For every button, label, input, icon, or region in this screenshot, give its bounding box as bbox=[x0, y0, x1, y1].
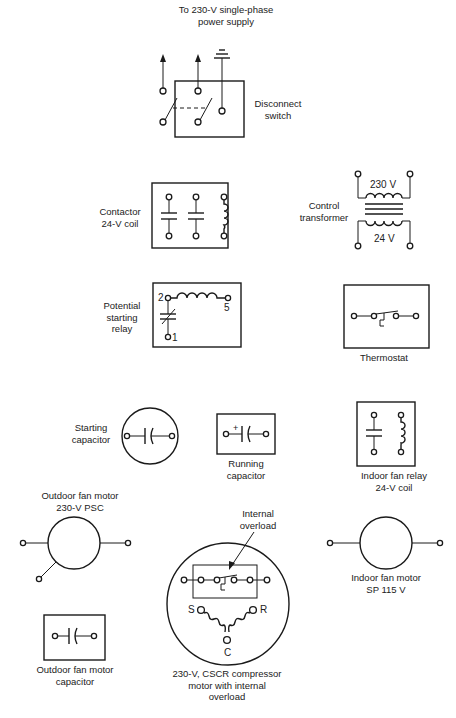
outdoor-fan-motor-symbol bbox=[20, 517, 130, 582]
terminal-r: R bbox=[260, 604, 267, 615]
primary-voltage: 230 V bbox=[370, 179, 396, 190]
thermostat-symbol bbox=[344, 285, 429, 348]
potential-relay-symbol: 2 5 1 bbox=[153, 283, 241, 347]
relay-terminal-5: 5 bbox=[224, 302, 230, 313]
indoor-fan-relay-symbol bbox=[357, 402, 415, 466]
compressor-symbol: S R C bbox=[167, 532, 289, 665]
control-transformer-symbol: 230 V 24 V bbox=[355, 171, 413, 249]
contactor-symbol bbox=[152, 183, 228, 248]
disconnect-switch-symbol bbox=[160, 50, 244, 137]
secondary-voltage: 24 V bbox=[374, 233, 395, 244]
running-capacitor-symbol: + bbox=[217, 414, 275, 454]
relay-terminal-2: 2 bbox=[158, 292, 164, 303]
wiring-symbols-diagram: 230 V 24 V 2 5 1 bbox=[0, 0, 456, 718]
terminal-c: C bbox=[224, 647, 231, 658]
terminal-s: S bbox=[188, 604, 195, 615]
outdoor-fan-capacitor-symbol bbox=[44, 615, 105, 660]
indoor-fan-motor-symbol bbox=[327, 517, 442, 569]
polarity-plus: + bbox=[233, 423, 238, 433]
relay-terminal-1: 1 bbox=[172, 332, 178, 343]
starting-capacitor-symbol bbox=[122, 408, 178, 464]
